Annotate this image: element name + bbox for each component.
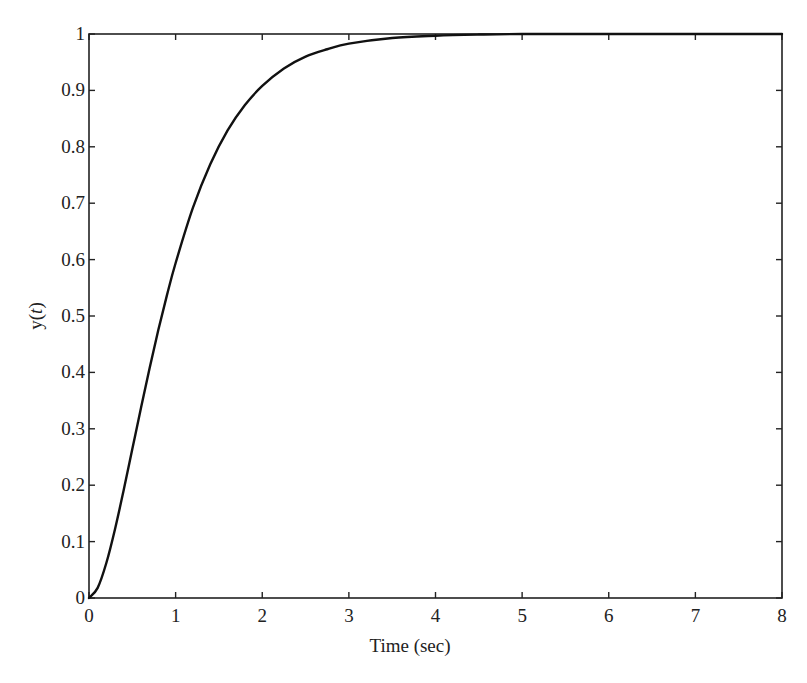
x-tick-label: 6 [604, 605, 614, 626]
x-axis-label: Time (sec) [369, 635, 450, 657]
x-tick-label: 4 [431, 605, 441, 626]
x-tick-label: 3 [344, 605, 354, 626]
x-tick-label: 0 [84, 605, 94, 626]
step-response-curve [89, 34, 782, 598]
y-tick-label: 0.2 [61, 474, 85, 495]
x-tick-labels: 012345678 [84, 605, 787, 626]
y-tick-label: 1 [76, 23, 86, 44]
y-tick-label: 0.3 [61, 418, 85, 439]
y-tick-label: 0 [76, 587, 86, 608]
chart-canvas: 012345678 00.10.20.30.40.50.60.70.80.91 … [0, 0, 807, 683]
x-tick-label: 5 [517, 605, 527, 626]
x-tick-label: 2 [258, 605, 268, 626]
y-tick-label: 0.9 [61, 79, 85, 100]
y-tick-label: 0.6 [61, 249, 85, 270]
y-tick-label: 0.1 [61, 531, 85, 552]
axis-ticks [89, 34, 782, 598]
y-tick-label: 0.4 [61, 361, 85, 382]
x-tick-label: 8 [777, 605, 787, 626]
x-tick-label: 1 [171, 605, 181, 626]
plot-frame [89, 34, 782, 598]
y-tick-label: 0.7 [61, 192, 85, 213]
y-tick-label: 0.5 [61, 305, 85, 326]
y-axis-label: y(t) [25, 302, 47, 329]
y-tick-label: 0.8 [61, 136, 85, 157]
y-tick-labels: 00.10.20.30.40.50.60.70.80.91 [61, 23, 85, 608]
x-tick-label: 7 [691, 605, 701, 626]
